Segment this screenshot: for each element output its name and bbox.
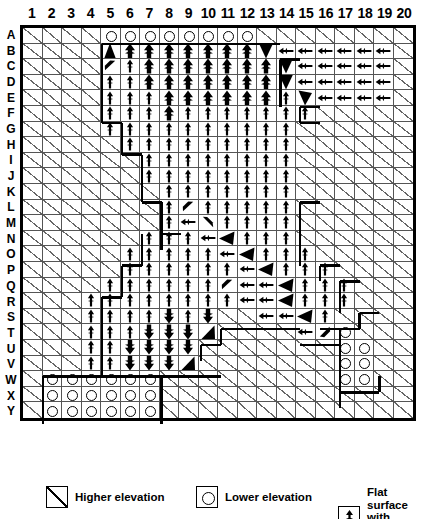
cell-Q5-flow-up[interactable]: [101, 278, 121, 294]
cell-N13-flow-up[interactable]: [257, 231, 277, 247]
cell-G20-higher-elevation[interactable]: [394, 122, 414, 138]
cell-O4-higher-elevation[interactable]: [82, 246, 102, 262]
cell-H18-higher-elevation[interactable]: [355, 137, 375, 153]
cell-P19-higher-elevation[interactable]: [374, 262, 394, 278]
cell-A19-higher-elevation[interactable]: [374, 28, 394, 44]
cell-D10-flow-up-l[interactable]: [199, 75, 219, 91]
cell-O20-higher-elevation[interactable]: [394, 246, 414, 262]
cell-C3-higher-elevation[interactable]: [62, 59, 82, 75]
cell-I5-higher-elevation[interactable]: [101, 153, 121, 169]
cell-B4-higher-elevation[interactable]: [82, 44, 102, 60]
cell-K14-flow-up[interactable]: [277, 184, 297, 200]
cell-F7-flow-up[interactable]: [140, 106, 160, 122]
cell-G4-higher-elevation[interactable]: [82, 122, 102, 138]
cell-W9-higher-elevation[interactable]: [179, 371, 199, 387]
cell-W18-lower-elevation[interactable]: [355, 371, 375, 387]
cell-J5-higher-elevation[interactable]: [101, 168, 121, 184]
cell-C12-flow-up-l[interactable]: [238, 59, 258, 75]
cell-Y5-lower-elevation[interactable]: [101, 402, 121, 418]
cell-B14-flow-left[interactable]: [277, 44, 297, 60]
cell-B3-higher-elevation[interactable]: [62, 44, 82, 60]
cell-Q3-higher-elevation[interactable]: [62, 278, 82, 294]
cell-U2-higher-elevation[interactable]: [43, 340, 63, 356]
cell-D19-flow-left[interactable]: [374, 75, 394, 91]
cell-L19-higher-elevation[interactable]: [374, 200, 394, 216]
cell-V8-flow-down-l[interactable]: [160, 356, 180, 372]
cell-O2-higher-elevation[interactable]: [43, 246, 63, 262]
cell-U4-flow-up[interactable]: [82, 340, 102, 356]
cell-D4-higher-elevation[interactable]: [82, 75, 102, 91]
cell-D1-higher-elevation[interactable]: [23, 75, 43, 91]
cell-R12-flow-left[interactable]: [238, 293, 258, 309]
cell-F8-flow-up-l[interactable]: [160, 106, 180, 122]
cell-H20-higher-elevation[interactable]: [394, 137, 414, 153]
cell-J20-higher-elevation[interactable]: [394, 168, 414, 184]
cell-A5-lower-elevation[interactable]: [101, 28, 121, 44]
cell-T8-flow-down-l[interactable]: [160, 324, 180, 340]
cell-I17-higher-elevation[interactable]: [335, 153, 355, 169]
cell-N1-higher-elevation[interactable]: [23, 231, 43, 247]
cell-H11-flow-up[interactable]: [218, 137, 238, 153]
cell-M11-flow-up[interactable]: [218, 215, 238, 231]
cell-D11-flow-up-l[interactable]: [218, 75, 238, 91]
cell-E18-flow-left[interactable]: [355, 90, 375, 106]
cell-A15-higher-elevation[interactable]: [296, 28, 316, 44]
cell-T9-flow-down-l[interactable]: [179, 324, 199, 340]
cell-C20-higher-elevation[interactable]: [394, 59, 414, 75]
cell-X15-higher-elevation[interactable]: [296, 387, 316, 403]
cell-K6-higher-elevation[interactable]: [121, 184, 141, 200]
cell-U5-flow-up[interactable]: [101, 340, 121, 356]
cell-I1-higher-elevation[interactable]: [23, 153, 43, 169]
cell-Q20-higher-elevation[interactable]: [394, 278, 414, 294]
cell-O5-higher-elevation[interactable]: [101, 246, 121, 262]
cell-E9-flow-up-l[interactable]: [179, 90, 199, 106]
cell-Q14-flow-left-xl[interactable]: [277, 278, 297, 294]
cell-S12-higher-elevation[interactable]: [238, 309, 258, 325]
cell-K4-higher-elevation[interactable]: [82, 184, 102, 200]
cell-C4-higher-elevation[interactable]: [82, 59, 102, 75]
cell-V18-lower-elevation[interactable]: [355, 356, 375, 372]
cell-L2-higher-elevation[interactable]: [43, 200, 63, 216]
cell-X13-higher-elevation[interactable]: [257, 387, 277, 403]
cell-Y1-higher-elevation[interactable]: [23, 402, 43, 418]
cell-P12-flow-left[interactable]: [238, 262, 258, 278]
cell-A2-higher-elevation[interactable]: [43, 28, 63, 44]
cell-V14-higher-elevation[interactable]: [277, 356, 297, 372]
cell-D15-flow-left[interactable]: [296, 75, 316, 91]
cell-P14-flow-up[interactable]: [277, 262, 297, 278]
cell-T2-higher-elevation[interactable]: [43, 324, 63, 340]
cell-O6-flow-up[interactable]: [121, 246, 141, 262]
cell-E3-higher-elevation[interactable]: [62, 90, 82, 106]
cell-E19-flow-left[interactable]: [374, 90, 394, 106]
cell-J3-higher-elevation[interactable]: [62, 168, 82, 184]
cell-S10-flow-down-l[interactable]: [199, 309, 219, 325]
cell-F14-flow-up[interactable]: [277, 106, 297, 122]
cell-X20-higher-elevation[interactable]: [394, 387, 414, 403]
cell-E6-flow-up[interactable]: [121, 90, 141, 106]
cell-E7-flow-up[interactable]: [140, 90, 160, 106]
cell-Q1-higher-elevation[interactable]: [23, 278, 43, 294]
cell-V15-higher-elevation[interactable]: [296, 356, 316, 372]
cell-S6-flow-up[interactable]: [121, 309, 141, 325]
cell-V20-higher-elevation[interactable]: [394, 356, 414, 372]
cell-R14-flow-left-xl[interactable]: [277, 293, 297, 309]
cell-D3-higher-elevation[interactable]: [62, 75, 82, 91]
cell-S13-flow-left[interactable]: [257, 309, 277, 325]
cell-E12-flow-up-l[interactable]: [238, 90, 258, 106]
cell-A7-lower-elevation[interactable]: [140, 28, 160, 44]
cell-F4-higher-elevation[interactable]: [82, 106, 102, 122]
cell-H13-flow-up[interactable]: [257, 137, 277, 153]
cell-E2-higher-elevation[interactable]: [43, 90, 63, 106]
cell-D7-flow-up-l[interactable]: [140, 75, 160, 91]
cell-F12-flow-up[interactable]: [238, 106, 258, 122]
cell-V11-higher-elevation[interactable]: [218, 356, 238, 372]
cell-L10-flow-up[interactable]: [199, 200, 219, 216]
cell-R20-higher-elevation[interactable]: [394, 293, 414, 309]
cell-X19-higher-elevation[interactable]: [374, 387, 394, 403]
cell-G1-higher-elevation[interactable]: [23, 122, 43, 138]
cell-L9-flow-up-ne[interactable]: [179, 200, 199, 216]
cell-K19-higher-elevation[interactable]: [374, 184, 394, 200]
cell-T4-flow-up[interactable]: [82, 324, 102, 340]
cell-U9-flow-down-l[interactable]: [179, 340, 199, 356]
cell-H2-higher-elevation[interactable]: [43, 137, 63, 153]
